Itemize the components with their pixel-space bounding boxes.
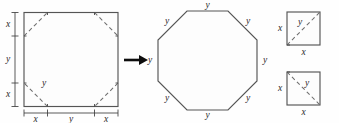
square-bottom-label-0: x [32, 114, 38, 123]
square-left-label-2: x [5, 89, 11, 99]
corner-piece-top-group: x x y [277, 12, 320, 57]
square-left-label-0: x [5, 19, 11, 29]
square-outline [24, 13, 118, 107]
corner-piece-top-bottom-label: x [300, 47, 306, 57]
octagon-side-label-top-right: y [245, 16, 251, 26]
square-left-label-1: y [5, 54, 11, 64]
corner-piece-bottom-bottom-label: x [300, 107, 306, 117]
octagon-side-label-left: y [147, 55, 153, 65]
corner-piece-top-left-label: x [277, 23, 283, 33]
resulting-octagon-group: y y y y y y y y [147, 0, 268, 120]
figure-canvas: y x y x x y x [0, 0, 339, 123]
square-left-dimension: x y x [5, 13, 19, 107]
octagon-outline [158, 11, 257, 110]
corner-piece-bottom-diagonal-label: y [304, 78, 310, 88]
corner-piece-bottom-group: x x y [277, 72, 320, 117]
octagon-side-label-bottom-left: y [164, 93, 170, 103]
octagon-side-label-bottom-right: y [245, 93, 251, 103]
octagon-side-label-bottom: y [204, 110, 210, 120]
transform-arrow [124, 55, 148, 65]
square-bottom-dimension: x y x [24, 110, 118, 124]
corner-piece-bottom-left-label: x [277, 83, 283, 93]
square-cut-label: y [41, 78, 47, 88]
square-bottom-label-2: x [103, 114, 109, 123]
corner-piece-top-diagonal-label: y [297, 17, 303, 27]
arrow-head-icon [139, 55, 148, 65]
octagon-construction-figure: y x y x x y x [0, 0, 339, 123]
octagon-side-label-top: y [204, 0, 210, 10]
octagon-side-label-top-left: y [164, 16, 170, 26]
square-bottom-label-1: y [68, 114, 74, 123]
octagon-side-label-right: y [262, 55, 268, 65]
original-square-group: y x y x x y x [5, 13, 118, 124]
